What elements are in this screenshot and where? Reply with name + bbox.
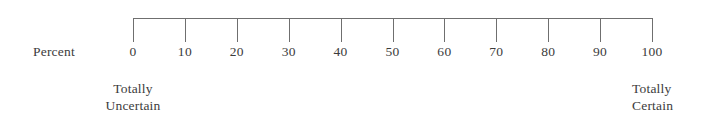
tick-label-100: 100 <box>622 44 682 59</box>
anchor-label-right: Totally Certain <box>632 80 673 114</box>
anchor-left-line-1: Totally <box>58 80 208 97</box>
anchor-right-line-1: Totally <box>632 80 673 97</box>
percent-certainty-scale-figure: Percent 0102030405060708090100 Totally U… <box>0 0 713 127</box>
anchor-label-left: Totally Uncertain <box>58 80 208 114</box>
anchor-left-line-2: Uncertain <box>58 97 208 114</box>
anchor-right-line-2: Certain <box>632 97 673 114</box>
